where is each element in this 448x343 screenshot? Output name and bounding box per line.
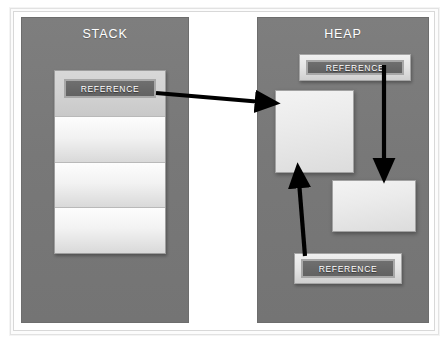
heap-reference-chip-top[interactable]: REFERENCE (306, 60, 404, 75)
stack-region: STACK REFERENCE (21, 17, 189, 323)
heap-reference-holder-bottom: REFERENCE (294, 253, 402, 284)
stack-cell[interactable] (55, 208, 165, 253)
stack-reference-chip[interactable]: REFERENCE (64, 79, 156, 98)
heap-reference-chip-bottom[interactable]: REFERENCE (301, 259, 395, 278)
stack-cell[interactable] (55, 117, 165, 163)
heap-reference-holder-top: REFERENCE (299, 54, 411, 81)
heap-object-2[interactable] (332, 180, 416, 232)
stack-frame: REFERENCE (54, 70, 166, 254)
heap-region: HEAP REFERENCE REFERENCE (257, 17, 429, 323)
stack-cell[interactable]: REFERENCE (55, 71, 165, 117)
stack-cell[interactable] (55, 163, 165, 209)
diagram-canvas: STACK REFERENCE HEAP REFERENCE REFERENCE (0, 0, 448, 343)
heap-object-1[interactable] (275, 90, 354, 173)
heap-region-title: HEAP (258, 27, 428, 41)
stack-region-title: STACK (22, 27, 188, 41)
